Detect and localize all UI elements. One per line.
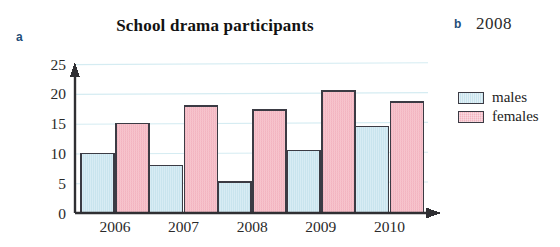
legend-label-males: males <box>492 89 527 106</box>
figure-root: a b 2008 School drama participants 05101… <box>0 0 560 247</box>
legend-swatch-males-icon <box>458 92 484 104</box>
x-tick-labels: 20062007200820092010 <box>100 218 406 235</box>
x-tick-2007: 2007 <box>168 218 199 235</box>
bar-2008-males <box>218 182 251 213</box>
part-b-answer: 2008 <box>476 14 512 34</box>
bars-group <box>81 91 423 213</box>
bar-chart-svg: 0510152025 20062007200820092010 <box>0 0 440 247</box>
x-tick-2008: 2008 <box>237 218 268 235</box>
y-tick-10: 10 <box>51 145 67 162</box>
bar-2006-females <box>116 124 149 213</box>
bar-2010-females <box>390 102 423 213</box>
bar-2008-females <box>253 110 286 213</box>
part-label-b: b <box>454 17 461 31</box>
x-tick-2010: 2010 <box>374 218 405 235</box>
bar-2009-females <box>322 91 355 213</box>
y-tick-5: 5 <box>58 175 66 192</box>
bar-chart-plot: 0510152025 20062007200820092010 <box>0 0 440 247</box>
legend-swatch-females-icon <box>458 111 484 123</box>
x-tick-2006: 2006 <box>100 218 131 235</box>
y-tick-0: 0 <box>58 205 66 222</box>
x-axis-arrow <box>426 208 440 219</box>
legend-item-males: males <box>458 88 558 107</box>
y-tick-20: 20 <box>51 85 67 102</box>
y-tick-25: 25 <box>51 56 67 73</box>
bar-2006-males <box>81 153 114 213</box>
legend-label-females: females <box>492 108 539 125</box>
bar-2009-males <box>287 150 320 213</box>
bar-2007-females <box>185 106 218 213</box>
chart-legend: males females <box>458 88 558 126</box>
x-tick-2009: 2009 <box>305 218 336 235</box>
y-tick-labels: 0510152025 <box>51 56 67 222</box>
bar-2010-males <box>355 127 388 213</box>
y-tick-15: 15 <box>51 115 67 132</box>
bar-2007-males <box>150 165 183 213</box>
legend-item-females: females <box>458 107 558 126</box>
